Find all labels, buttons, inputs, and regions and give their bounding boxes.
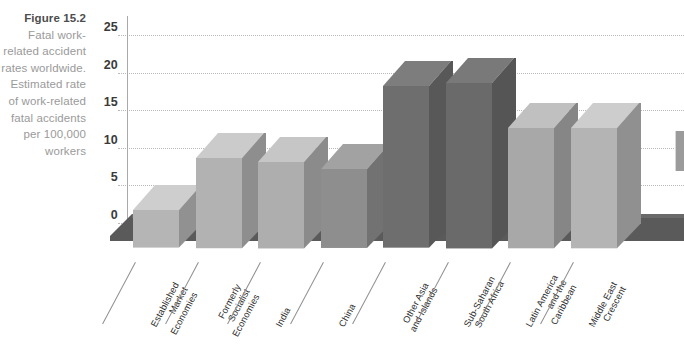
bar[interactable] bbox=[196, 133, 266, 250]
bar[interactable] bbox=[321, 144, 391, 250]
bar[interactable] bbox=[383, 61, 453, 250]
bar[interactable] bbox=[133, 185, 203, 250]
bar-series bbox=[0, 0, 684, 348]
bar-chart: 0510152025 Established Market EconomiesF… bbox=[0, 0, 684, 348]
bar[interactable] bbox=[508, 103, 578, 250]
bar[interactable] bbox=[571, 103, 641, 250]
bar[interactable] bbox=[258, 137, 328, 250]
bar[interactable] bbox=[446, 58, 516, 250]
page-edge-tab[interactable] bbox=[675, 131, 684, 171]
figure-15-2: Figure 15.2 Fatal work-related accident … bbox=[0, 0, 684, 348]
